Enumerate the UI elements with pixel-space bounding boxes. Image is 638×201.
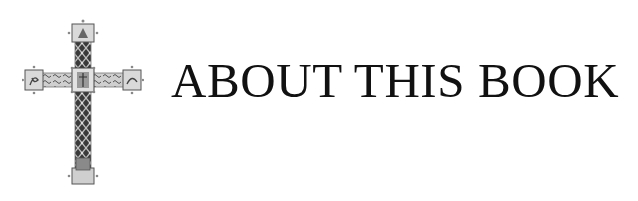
page-title: ABOUT THIS BOOK [171,56,619,105]
processional-cross-icon [22,18,144,188]
page: ABOUT THIS BOOK [0,0,638,201]
